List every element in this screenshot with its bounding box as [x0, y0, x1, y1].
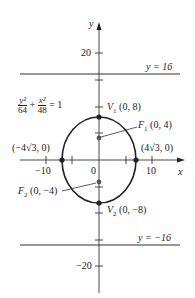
- vertex-v1: [96, 114, 101, 119]
- leader-f2: [62, 183, 96, 191]
- equation: y²64 + x²48 = 1: [18, 96, 62, 115]
- point-right: [133, 157, 138, 162]
- directrix-top-label: y = 16: [146, 62, 172, 72]
- directrix-bottom-label: y = −16: [138, 233, 171, 243]
- focus-f2: [97, 180, 102, 185]
- v2-label: V2 (0, −8): [107, 205, 146, 218]
- tick-label-0: 0: [91, 166, 96, 176]
- y-axis-arrow-icon: [97, 22, 102, 30]
- tick-label-20: 20: [81, 48, 91, 58]
- x-axis-label: x: [178, 167, 182, 177]
- right-point-label: (4√3, 0): [141, 143, 173, 153]
- y-axis-label: y: [89, 19, 93, 29]
- left-point-label: (−4√3, 0): [12, 143, 50, 153]
- v1-label: V1 (0, 8): [107, 102, 141, 115]
- point-left: [59, 157, 64, 162]
- leader-f1: [101, 127, 137, 137]
- x-axis-arrow-icon: [177, 158, 185, 163]
- f1-label: F1 (0, 4): [138, 120, 172, 133]
- f2-label: F2 (0, −4): [18, 186, 57, 199]
- tick-label-neg10: −10: [35, 166, 51, 176]
- vertex-v2: [96, 200, 101, 205]
- focus-f1: [97, 136, 102, 141]
- tick-label-10: 10: [146, 166, 156, 176]
- tick-label-neg20: −20: [76, 261, 92, 271]
